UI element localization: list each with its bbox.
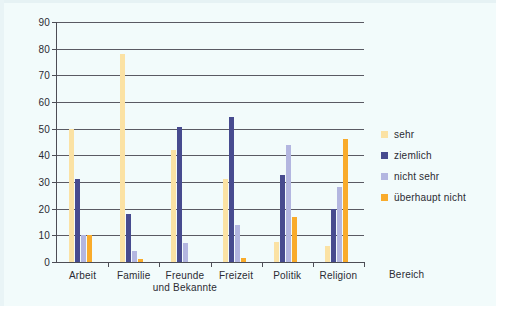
y-axis-tick-label: 20 [38, 203, 50, 214]
gridline [57, 22, 364, 23]
x-axis-tick [364, 262, 365, 267]
y-axis-tick [52, 182, 57, 183]
legend-label-ueberhaupt-nicht: überhaupt nicht [394, 192, 466, 203]
plot-area: 0102030405060708090ArbeitFamilieFreundeu… [56, 22, 364, 263]
gridline [57, 182, 364, 183]
scanned-page: 0102030405060708090ArbeitFamilieFreundeu… [0, 0, 516, 322]
y-axis-tick [52, 235, 57, 236]
bar [120, 54, 125, 262]
bar [87, 235, 92, 262]
legend-item: nicht sehr [381, 166, 501, 187]
chart-legend: sehr ziemlich nicht sehr überhaupt nicht [381, 124, 501, 208]
x-axis-tick-label: Freizeit [219, 270, 253, 281]
legend-swatch-ziemlich [381, 152, 388, 159]
x-axis-title: Bereich [389, 269, 424, 280]
bar [75, 179, 80, 262]
bar [81, 235, 86, 262]
bar [126, 214, 131, 262]
legend-item: sehr [381, 124, 501, 145]
y-axis-tick [52, 75, 57, 76]
y-axis-tick-label: 10 [38, 230, 50, 241]
bar [177, 127, 182, 262]
bar [286, 145, 291, 262]
y-axis-tick-label: 60 [38, 97, 50, 108]
y-axis-tick-label: 90 [38, 17, 50, 28]
y-axis-tick [52, 49, 57, 50]
bar [292, 217, 297, 262]
gridline [57, 235, 364, 236]
bar [343, 139, 348, 262]
y-axis-tick [52, 262, 57, 263]
legend-swatch-nicht-sehr [381, 173, 388, 180]
y-axis-tick-label: 40 [38, 150, 50, 161]
bar [171, 150, 176, 262]
bar [229, 117, 234, 262]
bar [223, 179, 228, 262]
bar [69, 129, 74, 262]
x-axis-tick-label: Politik [273, 270, 301, 281]
gridline [57, 129, 364, 130]
x-axis-tick-label: Familie [117, 270, 151, 281]
gridline [57, 155, 364, 156]
y-axis-tick-label: 70 [38, 70, 50, 81]
y-axis-tick [52, 155, 57, 156]
gridline [57, 49, 364, 50]
y-axis-tick-label: 80 [38, 43, 50, 54]
x-axis-tick-label: Arbeit [69, 270, 96, 281]
legend-item: überhaupt nicht [381, 187, 501, 208]
gridline [57, 75, 364, 76]
legend-swatch-ueberhaupt-nicht [381, 194, 388, 201]
bar [280, 175, 285, 262]
bar [241, 258, 246, 262]
y-axis-tick [52, 209, 57, 210]
x-axis-tick [108, 262, 109, 267]
bar [183, 243, 188, 262]
bar [331, 209, 336, 262]
bar-chart: 0102030405060708090ArbeitFamilieFreundeu… [0, 0, 516, 322]
legend-label-sehr: sehr [394, 129, 414, 140]
bar [132, 251, 137, 262]
x-axis-tick [262, 262, 263, 267]
legend-item: ziemlich [381, 145, 501, 166]
legend-swatch-sehr [381, 131, 388, 138]
y-axis-tick-label: 30 [38, 177, 50, 188]
gridline [57, 209, 364, 210]
x-axis-tick [313, 262, 314, 267]
y-axis-tick [52, 129, 57, 130]
y-axis-tick [52, 22, 57, 23]
bar [325, 246, 330, 262]
x-axis-tick [211, 262, 212, 267]
bar [235, 225, 240, 262]
y-axis-tick [52, 102, 57, 103]
bar [274, 242, 279, 262]
bar [337, 187, 342, 262]
legend-label-nicht-sehr: nicht sehr [394, 171, 439, 182]
x-axis-tick-label: Religion [320, 270, 358, 281]
gridline [57, 102, 364, 103]
x-axis-tick [159, 262, 160, 267]
y-axis-tick-label: 50 [38, 123, 50, 134]
y-axis-tick-label: 0 [44, 257, 50, 268]
bar [138, 259, 143, 262]
x-axis-tick-label: Freundeund Bekannte [153, 270, 217, 293]
legend-label-ziemlich: ziemlich [394, 150, 432, 161]
